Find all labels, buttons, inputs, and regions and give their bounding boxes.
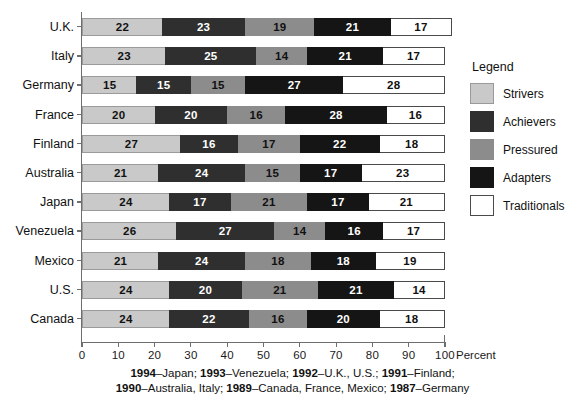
bar-row: Italy2325142117: [82, 47, 445, 65]
bar-segment: 24: [82, 281, 169, 299]
x-tick-label: 80: [366, 349, 379, 361]
category-label: Italy: [51, 48, 74, 64]
bar-segment: 24: [82, 193, 169, 211]
x-tick-label: 60: [293, 349, 306, 361]
bar-segment: 16: [249, 310, 307, 328]
bar-row: Australia2124151723: [82, 164, 445, 182]
category-label: U.K.: [50, 19, 74, 35]
legend-swatch: [470, 167, 494, 188]
x-tick-label: 40: [221, 349, 234, 361]
legend-label: Achievers: [503, 115, 556, 129]
plot-area: 0102030405060708090100 Percent U.K.22231…: [82, 12, 445, 338]
bar-segment: 15: [136, 76, 190, 94]
footnote-year: 1991: [382, 367, 408, 379]
x-tick: [118, 342, 119, 347]
legend-items: StriversAchieversPressuredAdaptersTradit…: [470, 81, 582, 218]
bar-segment: 22: [300, 135, 380, 153]
bar-segment: 17: [307, 193, 369, 211]
bar-segment: 28: [285, 106, 387, 124]
bar-segment: 18: [380, 135, 445, 153]
bar-segment: 16: [227, 106, 285, 124]
bar-segment: 21: [369, 193, 445, 211]
category-label: Finland: [33, 136, 74, 152]
legend-swatch: [470, 195, 494, 216]
bar-segment: 21: [318, 281, 394, 299]
bar-row: France2020162816: [82, 106, 445, 124]
bar-segment: 24: [82, 310, 169, 328]
bar-row: Finland2716172218: [82, 135, 445, 153]
footnote-line: 1994–Japan; 1993–Venezuela; 1992–U.K., U…: [0, 366, 585, 381]
footnote-year: 1993: [200, 367, 226, 379]
footnote-text: –Finland;: [407, 367, 454, 379]
bar-segment: 21: [82, 252, 158, 270]
footnote-text: –Australia, Italy;: [141, 382, 226, 394]
x-tick: [190, 342, 191, 347]
legend-title: Legend: [472, 60, 582, 74]
bar-segment: 21: [314, 18, 390, 36]
bar-segment: 23: [162, 18, 245, 36]
legend-item: Achievers: [470, 109, 582, 134]
bar-segment: 15: [191, 76, 245, 94]
bar-segment: 20: [155, 106, 228, 124]
bar-segment: 20: [82, 106, 155, 124]
legend-swatch: [470, 83, 494, 104]
bar-segment: 14: [274, 222, 325, 240]
category-label: Venezuela: [16, 223, 74, 239]
category-label: Mexico: [34, 253, 74, 269]
x-tick-label: 100: [435, 349, 455, 361]
category-label: Germany: [23, 77, 74, 93]
bar-segment: 15: [245, 164, 299, 182]
category-label: U.S.: [50, 282, 74, 298]
bar-segment: 27: [176, 222, 274, 240]
legend-label: Traditionals: [503, 199, 565, 213]
legend-label: Strivers: [503, 87, 544, 101]
bar-segment: 16: [387, 106, 445, 124]
x-tick-label: 90: [402, 349, 415, 361]
bar-segment: 17: [383, 222, 445, 240]
bar-row: U.S.2420212114: [82, 281, 445, 299]
legend: Legend StriversAchieversPressuredAdapter…: [470, 60, 582, 221]
bar-row: U.K.2223192117: [82, 18, 445, 36]
bar-segment: 17: [300, 164, 362, 182]
bar-segment: 21: [307, 47, 383, 65]
bar-segment: 28: [343, 76, 445, 94]
bar-segment: 19: [376, 252, 445, 270]
x-tick: [444, 342, 445, 347]
bar-row: Japan2417211721: [82, 193, 445, 211]
x-tick: [408, 342, 409, 347]
bar-row: Venezuela2627141617: [82, 222, 445, 240]
x-tick-label: 20: [148, 349, 161, 361]
footnote-text: –Japan;: [156, 367, 200, 379]
footnote-text: –U.K., U.S.;: [318, 367, 382, 379]
legend-swatch: [470, 111, 494, 132]
bar-segment: 17: [383, 47, 445, 65]
x-tick-label: 70: [329, 349, 342, 361]
bar-segment: 17: [238, 135, 300, 153]
bar-segment: 27: [245, 76, 343, 94]
bar-segment: 14: [256, 47, 307, 65]
x-tick-label: 50: [257, 349, 270, 361]
bar-segment: 16: [325, 222, 383, 240]
bar-segment: 18: [380, 310, 445, 328]
x-tick: [81, 342, 82, 347]
category-label: Japan: [40, 194, 74, 210]
category-label: Australia: [25, 165, 74, 181]
bar-segment: 23: [362, 164, 445, 182]
footnote-text: –Germany: [416, 382, 470, 394]
bar-segment: 22: [82, 18, 162, 36]
bar-segment: 19: [245, 18, 314, 36]
x-tick-label: 30: [184, 349, 197, 361]
bar-segment: 17: [169, 193, 231, 211]
legend-item: Pressured: [470, 137, 582, 162]
bar-segment: 20: [307, 310, 380, 328]
legend-item: Strivers: [470, 81, 582, 106]
bar-row: Canada2422162018: [82, 310, 445, 328]
bar-segment: 23: [82, 47, 165, 65]
x-tick: [263, 342, 264, 347]
x-tick: [299, 342, 300, 347]
bar-segment: 25: [165, 47, 256, 65]
footnote-year: 1987: [390, 382, 416, 394]
bar-segment: 18: [311, 252, 376, 270]
bar-row: Germany1515152728: [82, 76, 445, 94]
footnote-year: 1990: [116, 382, 142, 394]
